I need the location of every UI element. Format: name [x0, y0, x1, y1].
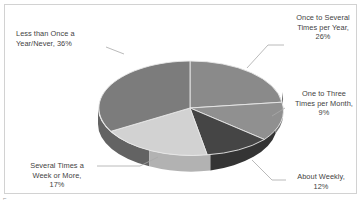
- leader-line-about-weekly: [252, 160, 286, 180]
- data-label-less-than-once-a-year-never: Less than Once a Year/Never, 36%: [16, 29, 106, 48]
- leader-line-once-to-several-times-per-year: [247, 45, 284, 68]
- leader-line-less-than-once-a-year-never: [106, 47, 124, 54]
- data-label-one-to-three-times-per-month: One to Three Times per Month, 9%: [288, 89, 360, 118]
- pie-top-face: [99, 61, 284, 155]
- data-label-several-times-a-week-or-more: Several Times a Week or More, 17%: [14, 161, 100, 190]
- data-label-once-to-several-times-per-year: Once to Several Times per Year, 26%: [286, 13, 360, 42]
- pie-slice-once-to-several-times-per-year: [190, 61, 282, 108]
- data-label-about-weekly: About Weekly, 12%: [286, 172, 356, 191]
- corner-artifact-mark: ⌐: [3, 196, 8, 201]
